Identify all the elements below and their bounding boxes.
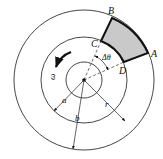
omega-rotation-arrow-icon (56, 52, 71, 67)
label-omega: ω (47, 74, 57, 80)
label-d: D (118, 65, 127, 76)
label-a: A (150, 48, 158, 59)
label-dimension-b: b (75, 113, 80, 123)
rotating-disk-diagram: B A C D Δθ ω a b r (0, 0, 163, 159)
label-delta-theta: Δθ (101, 53, 111, 62)
label-b: B (108, 5, 114, 16)
label-c: C (91, 38, 98, 49)
radial-line-d (84, 62, 124, 80)
label-dimension-r: r (105, 99, 109, 109)
label-dimension-a: a (62, 95, 67, 105)
